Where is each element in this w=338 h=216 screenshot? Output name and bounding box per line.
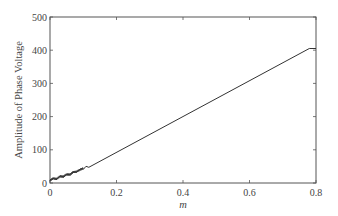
plot-frame	[50, 17, 316, 183]
y-tick-label: 0	[42, 178, 47, 189]
y-tick-label: 400	[32, 45, 47, 56]
y-tick-labels: 0100200300400500	[32, 12, 47, 189]
x-tick-label: 0.2	[110, 187, 123, 198]
line-chart: 00.20.40.60.8 0100200300400500 m Amplitu…	[0, 0, 338, 216]
data-line	[50, 49, 316, 182]
y-tick-label: 500	[32, 12, 47, 23]
x-tick-label: 0.6	[243, 187, 256, 198]
y-axis-label: Amplitude of Phase Voltage	[13, 41, 24, 159]
y-tick-label: 100	[32, 144, 47, 155]
x-tick-label: 0.4	[177, 187, 190, 198]
y-tick-label: 300	[32, 78, 47, 89]
x-tick-label: 0.8	[310, 187, 323, 198]
x-tick-label: 0	[48, 187, 53, 198]
x-axis-label: m	[179, 199, 187, 210]
axis-ticks	[50, 17, 316, 183]
x-tick-labels: 00.20.40.60.8	[48, 187, 323, 198]
y-tick-label: 200	[32, 111, 47, 122]
plot-border	[50, 17, 316, 183]
